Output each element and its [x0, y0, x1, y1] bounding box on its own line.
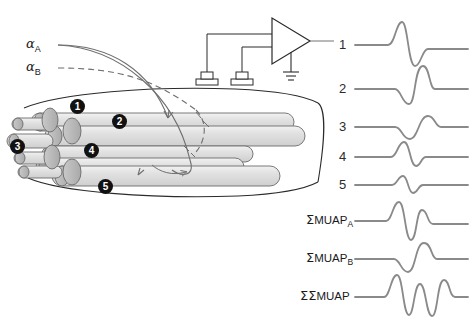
trace-label-4: 4: [339, 150, 346, 163]
trace-5: [355, 176, 468, 193]
trace-3: [355, 116, 468, 139]
trace-label-sum-muap-a: ΣMUAPA: [306, 213, 353, 229]
fiber-badge-4: 4: [84, 143, 99, 158]
trace-label-5: 5: [339, 178, 346, 191]
trace-sum-sum-muap: [355, 275, 468, 316]
figure-canvas: αA αB 1 2 3 4 5 1 2 3 4 5 ΣMUAPA ΣMUAPB …: [0, 0, 473, 326]
trace-label-sum-sum-muap: ΣΣMUAP: [300, 289, 350, 303]
fiber-badge-1: 1: [70, 99, 85, 114]
trace-sum-muap-b: [355, 243, 468, 272]
axon-label-alpha-a: αA: [26, 37, 41, 54]
fiber-badge-5: 5: [98, 179, 113, 194]
trace-2: [355, 66, 468, 104]
fiber-badge-3: 3: [10, 139, 25, 154]
waveform-traces: [0, 0, 473, 326]
fiber-badge-2: 2: [112, 114, 127, 129]
trace-label-3: 3: [339, 120, 346, 133]
trace-label-2: 2: [339, 82, 346, 95]
trace-4: [355, 142, 468, 166]
trace-label-1: 1: [339, 38, 346, 51]
trace-1: [355, 22, 468, 66]
axon-label-alpha-b: αB: [26, 60, 41, 77]
trace-label-sum-muap-b: ΣMUAPB: [306, 251, 353, 267]
trace-sum-muap-a: [355, 202, 468, 240]
